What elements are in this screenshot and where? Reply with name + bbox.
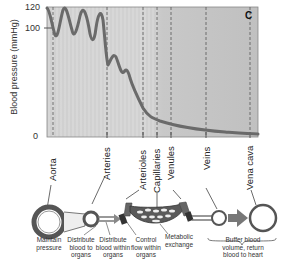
label-arteries: Arteries [101, 147, 112, 180]
label-aorta: Aorta [47, 158, 58, 181]
pressure-chart [0, 0, 285, 261]
caption-buffer-blood-volume: Buffer blood volume, return blood to hea… [218, 236, 268, 259]
vein-arrow [228, 209, 248, 227]
aorta-vessel-icon [34, 207, 64, 237]
label-vena-cava: Vena cava [244, 146, 255, 190]
panel-label: C [245, 10, 252, 21]
artery-vessel-icon [84, 212, 98, 226]
vena-cava-vessel-icon [250, 205, 276, 231]
label-venules: Venules [165, 146, 176, 180]
blood-pressure-figure: 120 100 0 Blood pressure (mmHg) [0, 0, 285, 261]
artery-arrow [98, 214, 121, 224]
label-arterioles: Arterioles [137, 150, 148, 190]
capillary-bed-icon [118, 202, 193, 225]
caption-metabolic-exchange: Metabolic exchange [159, 233, 199, 248]
label-capillaries: Capillaries [151, 149, 162, 193]
label-veins: Veins [201, 147, 212, 170]
vein-vessel-icon [212, 211, 226, 225]
